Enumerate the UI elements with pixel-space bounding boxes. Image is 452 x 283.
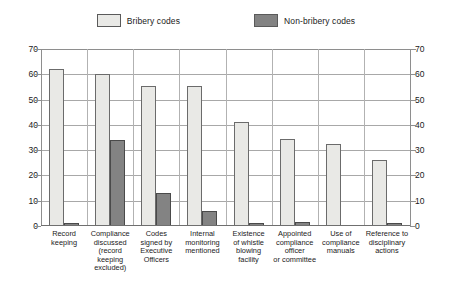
legend-label-non-bribery-codes: Non-bribery codes	[284, 16, 355, 26]
bar-bribery	[372, 160, 387, 226]
category-separator-1	[87, 49, 88, 226]
y-tick-label-right-60: 60	[415, 70, 439, 79]
legend-item-bribery-codes: Bribery codes	[97, 14, 180, 27]
bar-group	[372, 160, 402, 226]
bar-bribery	[95, 74, 110, 226]
bar-group	[326, 144, 356, 226]
category-separator-8	[410, 49, 411, 226]
category-separator-3	[179, 49, 180, 226]
x-axis-labels: Record keepingCompliance discussed (reco…	[41, 230, 410, 273]
x-axis-label: Use of compliance manuals	[318, 230, 364, 273]
bar-group	[141, 86, 171, 226]
category-separator-2	[133, 49, 134, 226]
x-axis-label: Appointed compliance officer or committe…	[272, 230, 318, 273]
plot-area	[41, 49, 410, 226]
bar-bribery	[49, 69, 64, 226]
x-axis-label: Codes signed by Executive Officers	[133, 230, 179, 273]
x-axis-label: Internal monitoring mentioned	[179, 230, 225, 273]
y-tick-label-right-10: 10	[415, 197, 439, 206]
bar-bribery	[234, 122, 249, 226]
bar-non-bribery	[156, 193, 171, 226]
bar-bribery	[187, 86, 202, 226]
y-tick-label-right-20: 20	[415, 171, 439, 180]
legend-item-non-bribery-codes: Non-bribery codes	[254, 14, 355, 27]
legend-label-bribery-codes: Bribery codes	[127, 16, 180, 26]
bar-group	[280, 139, 310, 226]
bar-chart: Bribery codes Non-bribery codes 00101020…	[0, 0, 452, 283]
x-axis-label: Existence of whistle blowing facility	[226, 230, 272, 273]
tick-mark-left-0	[35, 226, 41, 227]
bar-non-bribery	[202, 211, 217, 226]
category-separator-0	[41, 49, 42, 226]
chart-legend: Bribery codes Non-bribery codes	[0, 14, 452, 27]
bar-non-bribery	[110, 140, 125, 226]
x-axis-label: Reference to disciplinary actions	[364, 230, 410, 273]
bar-group	[234, 122, 264, 226]
x-axis-label: Record keeping	[41, 230, 87, 273]
bar-bribery	[326, 144, 341, 226]
tick-mark-right-0	[410, 226, 416, 227]
dark-swatch-icon	[254, 14, 278, 27]
bar-group	[187, 86, 217, 226]
light-swatch-icon	[97, 14, 121, 27]
y-tick-label-right-40: 40	[415, 121, 439, 130]
y-tick-label-right-70: 70	[415, 45, 439, 54]
x-axis-label: Compliance discussed (record keeping exc…	[87, 230, 133, 273]
y-tick-label-right-30: 30	[415, 146, 439, 155]
y-tick-label-right-0: 0	[415, 222, 439, 231]
category-separator-7	[364, 49, 365, 226]
axis-baseline	[41, 225, 410, 226]
bar-bribery	[280, 139, 295, 226]
category-separator-5	[272, 49, 273, 226]
bar-group	[95, 74, 125, 226]
y-tick-label-right-50: 50	[415, 96, 439, 105]
bar-bribery	[141, 86, 156, 226]
category-separator-4	[226, 49, 227, 226]
category-separator-6	[318, 49, 319, 226]
bar-group	[49, 69, 79, 226]
